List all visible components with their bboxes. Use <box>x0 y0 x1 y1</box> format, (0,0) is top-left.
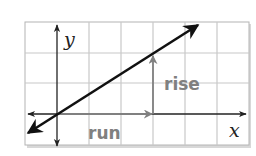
x-axis-label: x <box>229 119 240 141</box>
rise-label: rise <box>164 74 200 94</box>
slope-diagram: y x rise run <box>0 0 256 156</box>
coordinate-plane: y x rise run <box>0 0 256 156</box>
run-label: run <box>88 123 121 143</box>
y-axis-label: y <box>63 28 75 50</box>
